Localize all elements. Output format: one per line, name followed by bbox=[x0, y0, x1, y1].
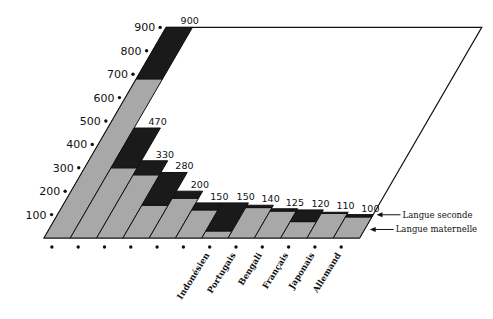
y-tick-dot bbox=[131, 73, 134, 76]
legend-label: Langue maternelle bbox=[396, 224, 477, 234]
y-tick-dot bbox=[104, 119, 107, 122]
bar-value-label: 125 bbox=[286, 197, 304, 208]
category-dot bbox=[287, 245, 290, 248]
bar-second-segment bbox=[172, 191, 202, 198]
y-tick-label: 100 bbox=[26, 209, 47, 222]
category-label: Bengali bbox=[236, 250, 264, 287]
y-tick-dot bbox=[158, 26, 161, 29]
bar-value-label: 120 bbox=[311, 198, 329, 209]
bar-value-label: 110 bbox=[336, 200, 354, 211]
bar-value-label: 280 bbox=[175, 160, 193, 171]
bar-value-label: 150 bbox=[237, 191, 255, 202]
bar-value-label: 470 bbox=[149, 116, 167, 127]
bar-value-label: 200 bbox=[191, 179, 209, 190]
bar-value-label: 140 bbox=[262, 193, 280, 204]
bar-value-label: 900 bbox=[181, 15, 199, 26]
y-tick-dot bbox=[63, 190, 66, 193]
y-tick-label: 900 bbox=[134, 21, 155, 34]
bar-value-label: 150 bbox=[210, 191, 228, 202]
legend: Langue secondeLangue maternelle bbox=[370, 210, 477, 235]
y-tick-label: 200 bbox=[39, 185, 60, 198]
stacked-bar-chart: 100200300400500600700800900 900470330280… bbox=[0, 0, 493, 319]
arrowhead-icon bbox=[370, 227, 376, 232]
category-dot bbox=[103, 245, 106, 248]
y-tick-dot bbox=[118, 96, 121, 99]
y-tick-dot bbox=[50, 213, 53, 216]
category-dot bbox=[208, 245, 211, 248]
bar-second-segment bbox=[246, 205, 274, 207]
bar-value-label: 330 bbox=[156, 149, 174, 160]
y-tick-dot bbox=[77, 166, 80, 169]
legend-label: Langue seconde bbox=[402, 210, 472, 220]
bar-second-segment bbox=[346, 215, 374, 217]
y-tick-label: 400 bbox=[66, 138, 87, 151]
category-label: Indonésien bbox=[175, 251, 212, 301]
bar-second-segment bbox=[192, 203, 222, 210]
category-dot bbox=[313, 245, 316, 248]
category-dot bbox=[339, 245, 342, 248]
y-tick-dot bbox=[145, 49, 148, 52]
category-dot bbox=[155, 245, 158, 248]
category-dot bbox=[182, 245, 185, 248]
y-tick-label: 800 bbox=[121, 45, 142, 58]
bar-second-segment bbox=[321, 212, 348, 213]
y-tick-label: 700 bbox=[107, 68, 128, 81]
x-axis: IndonésienPortugaisBengaliFrançaisJapona… bbox=[50, 245, 343, 301]
y-tick-label: 600 bbox=[93, 92, 114, 105]
category-dot bbox=[50, 245, 53, 248]
category-dot bbox=[234, 245, 237, 248]
y-tick-label: 300 bbox=[53, 162, 74, 175]
bar-second-segment bbox=[270, 209, 298, 211]
y-tick-dot bbox=[91, 143, 94, 146]
y-tick-label: 500 bbox=[80, 115, 101, 128]
bar-native-segment bbox=[202, 231, 232, 238]
bar-value-label: 100 bbox=[361, 203, 379, 214]
category-dot bbox=[76, 245, 79, 248]
category-dot bbox=[261, 245, 264, 248]
category-dot bbox=[129, 245, 132, 248]
